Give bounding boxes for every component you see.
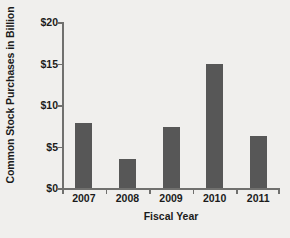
y-axis-tick-labels: $0$5$10$15$20 — [22, 0, 58, 238]
y-axis-tick-label: $0 — [24, 183, 58, 193]
x-axis-tick-label: 2010 — [193, 192, 237, 204]
plot-area — [62, 22, 280, 188]
y-axis-tick-label: $10 — [24, 100, 58, 110]
y-axis-title-text: Common Stock Purchases in Billion — [3, 7, 15, 184]
x-axis-tick-label: 2011 — [236, 192, 280, 204]
bar-chart-figure: Common Stock Purchases in Billion $0$5$1… — [0, 0, 290, 238]
y-axis-tick-label: $5 — [24, 142, 58, 152]
bar — [250, 136, 267, 188]
y-axis-tick-label: $15 — [24, 59, 58, 69]
x-axis-line — [62, 188, 280, 190]
y-axis-tick-mark — [57, 64, 63, 66]
bar — [163, 127, 180, 188]
y-axis-title: Common Stock Purchases in Billion — [0, 0, 18, 190]
y-axis-tick-mark — [57, 105, 63, 107]
bar — [75, 123, 92, 188]
y-axis-tick-label: $20 — [24, 17, 58, 27]
bar — [206, 64, 223, 188]
x-axis-tick-label: 2009 — [149, 192, 193, 204]
x-axis-tick-label: 2008 — [105, 192, 149, 204]
x-axis-tick-labels: 20072008200920102011 — [62, 192, 280, 208]
y-axis-tick-mark — [57, 147, 63, 149]
x-axis-title: Fiscal Year — [62, 210, 280, 222]
x-axis-tick-label: 2007 — [62, 192, 106, 204]
bar — [119, 159, 136, 188]
y-axis-tick-mark — [57, 22, 63, 24]
